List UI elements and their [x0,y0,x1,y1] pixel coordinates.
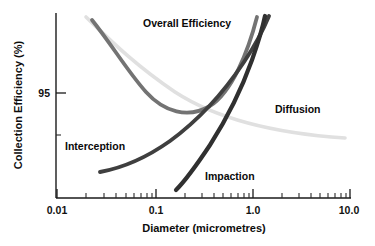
series-label-overall-efficiency: Overall Efficiency [143,17,231,29]
series-curve-interception [100,16,269,172]
x-minor-ticks-decade-1 [86,193,152,198]
x-tick-label-0-1: 0.1 [149,204,164,216]
series-curve-impaction [176,16,265,190]
x-minor-ticks-decade-3 [282,193,346,198]
x-tick-label-0-01: 0.01 [47,204,68,216]
series-curve-diffusion [86,17,345,138]
series-label-impaction: Impaction [205,170,255,182]
y-tick-label-95: 95 [38,87,50,99]
chart-container: 95 0.01 0.1 1.0 10.0 Diameter (micrometr… [0,0,375,246]
y-axis-title: Collection Efficiency (%) [12,40,24,169]
x-tick-label-1-0: 1.0 [246,204,261,216]
x-axis-title: Diameter (micrometres) [142,222,266,234]
x-minor-ticks-decade-2 [185,193,249,198]
series-curve-overall-efficiency [92,17,257,113]
chart-svg: 95 0.01 0.1 1.0 10.0 Diameter (micrometr… [0,0,375,246]
series-label-diffusion: Diffusion [275,103,321,115]
series-label-interception: Interception [65,140,125,152]
x-tick-label-10-0: 10.0 [339,204,360,216]
